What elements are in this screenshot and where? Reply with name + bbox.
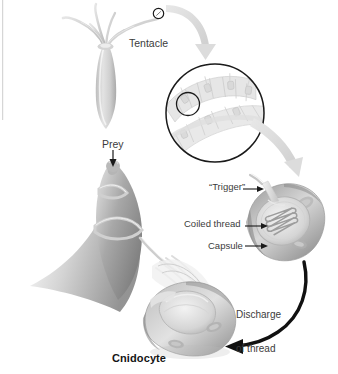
page-edge-artifact <box>2 0 3 120</box>
label-tentacle: Tentacle <box>129 38 168 50</box>
discharge-line-1: Discharge <box>236 309 281 320</box>
label-capsule: Capsule <box>208 241 243 252</box>
prey-organism <box>30 160 178 312</box>
gray-arrow-magnifier-to-cnidocyte <box>250 118 303 177</box>
tentacle-tip-circle-marker <box>153 8 163 18</box>
figure-caption-cnidocyte: Cnidocyte <box>112 352 166 364</box>
label-discharge-of-thread: Discharge of thread <box>236 287 281 374</box>
discharged-cnidocyte <box>143 256 236 359</box>
leader-line-trigger <box>243 186 264 192</box>
gray-arrow-tentacle-to-magnifier <box>166 5 216 60</box>
magnified-tentacle-epithelium-circle <box>159 64 270 163</box>
diagram-artwork <box>0 0 338 374</box>
label-prey: Prey <box>102 139 124 151</box>
label-coiled-thread: Coiled thread <box>184 219 241 230</box>
label-trigger: “Trigger” <box>209 182 245 193</box>
discharge-line-2: of thread <box>236 343 281 354</box>
hydra-polyp <box>63 4 157 129</box>
figure-canvas: Tentacle Prey “Trigger” Coiled thread Ca… <box>0 0 338 374</box>
